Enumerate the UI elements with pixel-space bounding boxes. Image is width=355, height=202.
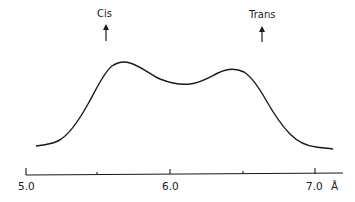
x-axis-line [26,173,343,175]
tick-label-5-0: 5.0 [18,180,35,192]
tick-label-6-0: 6.0 [162,180,179,192]
distribution-curve [36,62,333,149]
cis-label: Cis [97,8,112,19]
cis-annotation: Cis [97,8,112,41]
trans-label: Trans [248,9,275,20]
trans-arrowhead-icon [259,26,265,32]
tick-label-7-0: 7.0 [306,180,323,192]
x-axis: 5.0 6.0 7.0 Å [18,168,343,192]
distribution-chart: Cis Trans 5.0 6.0 7.0 Å [0,0,355,202]
x-axis-unit: Å [331,180,339,192]
cis-arrowhead-icon [103,24,109,30]
trans-annotation: Trans [248,9,275,42]
